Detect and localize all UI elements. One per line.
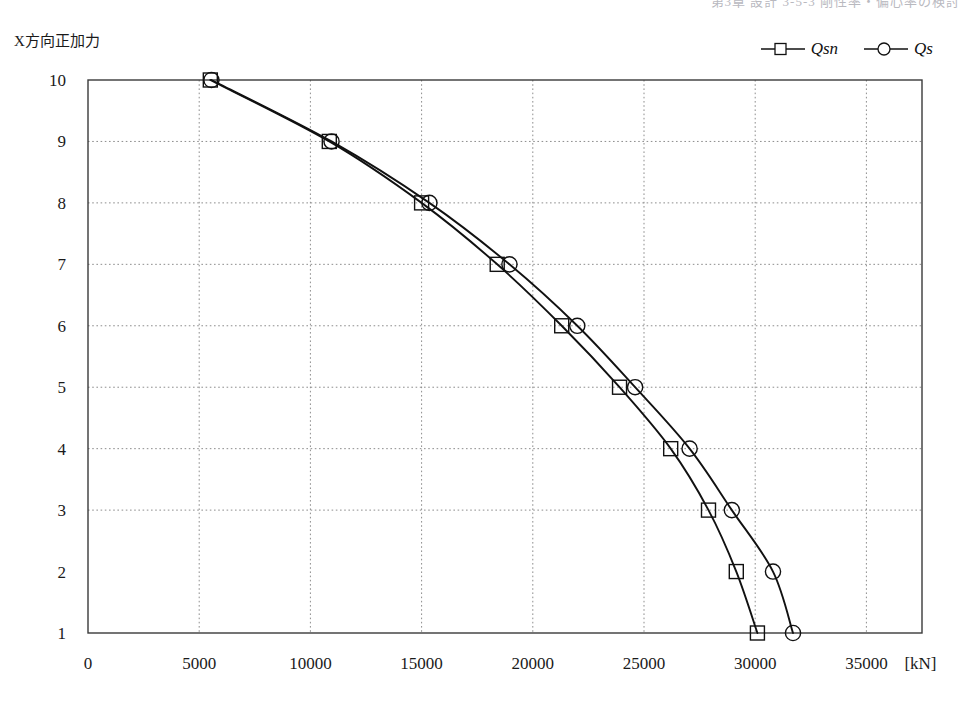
plot-border [88,80,922,633]
data-series-group [203,72,800,640]
gridlines-group [88,80,922,633]
x-tick-label: 30000 [734,655,777,672]
legend-circle-marker-icon [864,41,908,57]
data-point-circle[interactable] [682,441,697,456]
data-point-circle[interactable] [724,503,739,518]
data-point-circle[interactable] [502,257,517,272]
series-line-qsn [210,80,757,633]
data-point-square[interactable] [701,503,715,517]
data-point-square[interactable] [750,626,764,640]
data-point-circle[interactable] [785,625,800,640]
data-point-circle[interactable] [570,318,585,333]
y-tick-label: 4 [0,440,66,457]
legend-label-qsn: Qsn [811,40,838,57]
x-tick-label: 10000 [289,655,332,672]
x-tick-label: 25000 [623,655,666,672]
data-point-square[interactable] [664,442,678,456]
y-tick-label: 9 [0,133,66,150]
x-axis-unit-label: [kN] [904,655,936,672]
y-tick-label: 7 [0,256,66,273]
data-point-square[interactable] [555,319,569,333]
data-point-circle[interactable] [422,195,437,210]
data-point-square[interactable] [613,380,627,394]
x-tick-label: 5000 [182,655,216,672]
x-tick-label: 15000 [400,655,443,672]
data-point-circle[interactable] [765,564,780,579]
x-tick-label: 35000 [845,655,888,672]
series-qs [204,72,801,640]
chart-legend: Qsn Qs [761,40,933,57]
legend-label-qs: Qs [914,40,933,57]
cropped-header-text: 第3章 設計 3-5-3 剛性率・偏心率の検討 [540,0,960,9]
data-point-circle[interactable] [204,72,219,87]
data-point-circle[interactable] [628,380,643,395]
y-tick-label: 6 [0,317,66,334]
plot-area [0,0,969,702]
y-tick-label: 3 [0,502,66,519]
data-point-square[interactable] [729,565,743,579]
y-tick-label: 5 [0,379,66,396]
series-line-qs [211,80,793,633]
legend-square-marker-icon [761,41,805,57]
axis-frame [88,80,922,633]
chart-figure: 第3章 設計 3-5-3 剛性率・偏心率の検討 X方向正加力 Qsn Qs 12… [0,0,969,702]
legend-item-qsn[interactable]: Qsn [761,40,838,57]
data-point-circle[interactable] [324,134,339,149]
y-tick-label: 2 [0,563,66,580]
y-tick-label: 10 [0,72,66,89]
legend-item-qs[interactable]: Qs [864,40,933,57]
y-axis-label: X方向正加力 [14,34,100,49]
x-tick-label: 0 [84,655,93,672]
y-tick-label: 1 [0,625,66,642]
y-tick-label: 8 [0,194,66,211]
x-tick-label: 20000 [512,655,555,672]
series-qsn [203,73,764,640]
